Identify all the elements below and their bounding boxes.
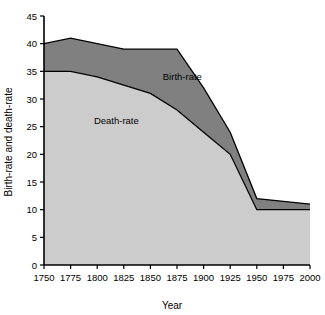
- x-axis-tick-label: 1950: [246, 272, 267, 283]
- y-axis-tick-label: 15: [26, 177, 37, 188]
- y-axis-tick-label: 40: [26, 38, 37, 49]
- x-axis-tick-label: 1875: [166, 272, 187, 283]
- x-axis-title: Year: [162, 300, 183, 311]
- y-axis-tick-label: 35: [26, 66, 37, 77]
- series-label-death-rate: Death-rate: [94, 115, 139, 126]
- y-axis-tick-label: 20: [26, 149, 37, 160]
- chart-canvas: 051015202530354045 175017751800182518501…: [0, 0, 325, 315]
- y-axis-tick-label: 10: [26, 204, 37, 215]
- x-axis-tick-label: 2000: [299, 272, 320, 283]
- y-axis-tick-label: 5: [32, 232, 37, 243]
- x-axis-tick-label: 1975: [273, 272, 294, 283]
- y-axis-tick-label: 30: [26, 94, 37, 105]
- x-axis-tick-label: 1850: [140, 272, 161, 283]
- y-axis-tick-label: 45: [26, 11, 37, 22]
- x-axis-tick-label: 1925: [220, 272, 241, 283]
- x-axis-tick-label: 1900: [193, 272, 214, 283]
- x-axis-tick-label: 1775: [60, 272, 81, 283]
- birth-death-rate-area-chart: 051015202530354045 175017751800182518501…: [0, 0, 325, 315]
- x-axis-tick-labels: 1750177518001825185018751900192519501975…: [33, 272, 320, 283]
- y-axis-tick-label: 0: [32, 260, 37, 271]
- series-label-birth-rate: Birth-rate: [163, 71, 202, 82]
- y-axis-tick-label: 25: [26, 121, 37, 132]
- y-axis-title: Birth-rate and death-rate: [3, 87, 14, 196]
- x-axis-tick-label: 1800: [87, 272, 108, 283]
- x-axis-tick-label: 1825: [113, 272, 134, 283]
- x-axis-tick-label: 1750: [33, 272, 54, 283]
